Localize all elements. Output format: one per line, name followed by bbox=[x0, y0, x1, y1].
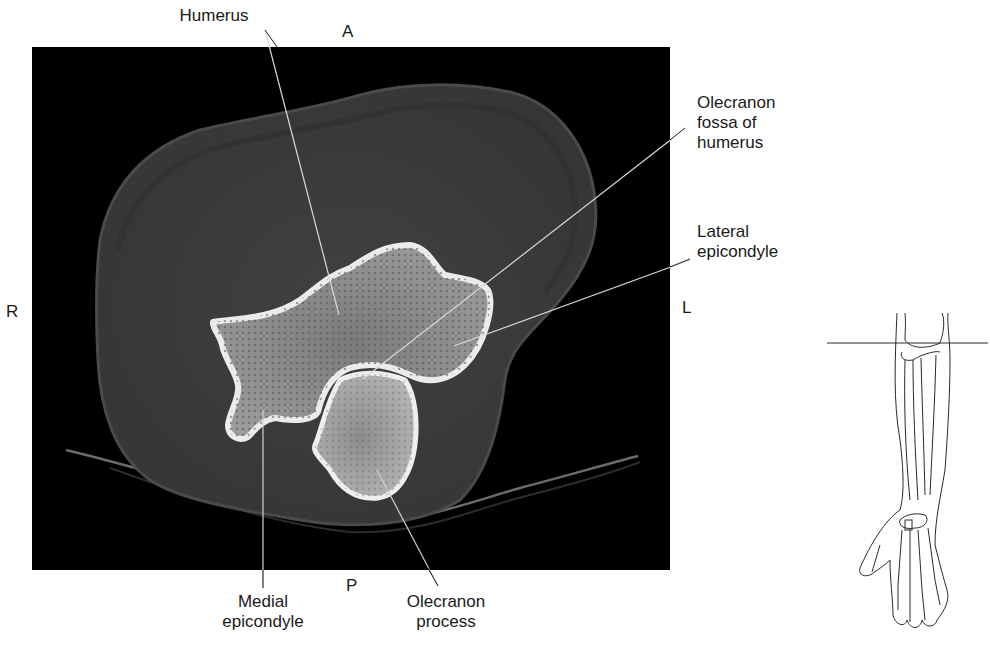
label-medial-epicondyle: Medial epicondyle bbox=[213, 592, 313, 632]
label-lateral-epicondyle: Lateral epicondyle bbox=[697, 222, 778, 262]
label-olecranon-process: Olecranon process bbox=[396, 592, 496, 632]
figure: A P R L Humerus Olecranon fossa of humer… bbox=[0, 0, 990, 645]
orientation-posterior: P bbox=[346, 576, 357, 596]
label-humerus: Humerus bbox=[178, 6, 250, 26]
forearm-locator-sketch bbox=[0, 0, 990, 645]
orientation-anterior: A bbox=[342, 22, 353, 42]
orientation-right: R bbox=[6, 302, 18, 322]
orientation-left: L bbox=[682, 298, 691, 318]
label-olecranon-fossa: Olecranon fossa of humerus bbox=[697, 93, 775, 153]
